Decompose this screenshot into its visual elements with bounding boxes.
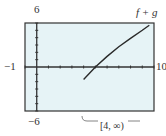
graph-window [0, 0, 166, 136]
domain-bracket-left [82, 116, 98, 121]
domain-label: [4, ∞) [100, 121, 124, 131]
